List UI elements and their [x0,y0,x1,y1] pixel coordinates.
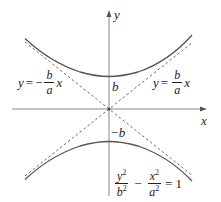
exponent: 2 [123,184,127,193]
fraction-numerator: y2 [115,169,128,184]
eq-minus: − [35,76,42,89]
hyperbola-equation: y2 b2 − x2 a2 = 1 [113,169,182,198]
x-axis-arrow-icon [200,107,207,112]
exponent: 2 [122,168,126,177]
fraction-denominator: a2 [149,184,159,198]
asymptote-left-equation: y = − b a x [18,69,62,96]
eq-rhs: = 1 [165,177,182,190]
y-axis-label: y [114,8,120,21]
asymptote-right-equation: y = b a x [153,69,190,96]
eq-sign: = [161,76,168,89]
eq-var: x [184,76,190,89]
fraction-y: y2 b2 [115,169,128,198]
fraction-numerator: b [172,69,182,83]
x-axis-label: x [201,114,207,127]
hyperbola-diagram [0,0,221,202]
origin-point [108,108,111,111]
y-axis-arrow-icon [107,10,112,17]
vertex-label-top: b [112,80,119,93]
eq-minus: − [134,177,141,190]
fraction-x: x2 a2 [148,169,161,198]
exponent: 2 [155,168,159,177]
eq-lhs: y [18,76,24,89]
fraction-denominator: a [46,83,52,96]
eq-sign: = [26,76,33,89]
exponent: 2 [155,184,159,193]
eq-var: x [56,76,62,89]
fraction: b a [44,69,54,96]
eq-lhs: y [153,76,159,89]
fraction-denominator: b2 [117,184,127,198]
vertex-label-bottom: −b [110,126,125,139]
fraction-numerator: x2 [148,169,161,184]
fraction-denominator: a [174,83,180,96]
fraction-numerator: b [44,69,54,83]
fraction: b a [172,69,182,96]
